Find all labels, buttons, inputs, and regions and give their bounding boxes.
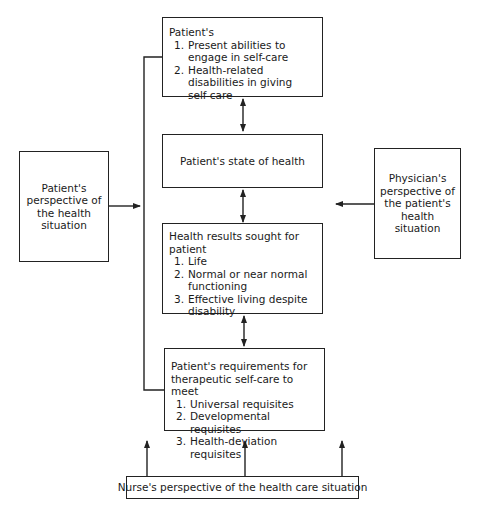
list-item: 2.Normal or near normal functioning [169,268,316,293]
box-health-results: Health results sought for patient 1.Life… [162,223,323,314]
left-bracket-line [144,57,164,390]
box-patient-perspective: Patient's perspective of the health situ… [19,151,109,262]
results-heading: Health results sought for patient [169,230,316,255]
physician-perspective-label: Physician's perspective of the patient's… [380,172,455,235]
list-item: 3.Health-deviation requisites [171,435,318,460]
list-item: 2.Health-related disabilities in giving … [169,64,316,102]
box-nurse-perspective: Nurse's perspective of the health care s… [126,476,359,499]
patient-perspective-label: Patient's perspective of the health situ… [26,182,102,232]
box-physician-perspective: Physician's perspective of the patient's… [374,148,461,259]
list-item: 1.Universal requisites [171,398,318,411]
box-requirements: Patient's requirements for therapeutic s… [164,348,325,431]
abilities-heading: Patient's [169,26,316,39]
list-item: 3.Effective living despite disability [169,293,316,318]
box-patient-abilities: Patient's 1.Present abilities to engage … [162,17,323,97]
list-item: 2.Developmental requisites [171,410,318,435]
box-state-of-health: Patient's state of health [162,134,323,188]
requirements-heading: Patient's requirements for therapeutic s… [171,360,318,398]
state-of-health-label: Patient's state of health [180,155,305,168]
list-item: 1.Present abilities to engage in self-ca… [169,39,316,64]
nurse-perspective-label: Nurse's perspective of the health care s… [118,481,368,494]
list-item: 1.Life [169,255,316,268]
